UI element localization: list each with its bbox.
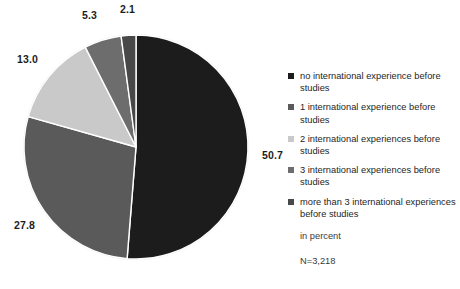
legend-swatch-icon [288, 167, 294, 173]
slice-value-label-2: 13.0 [17, 53, 38, 65]
legend-item: 2 international experiences before studi… [288, 133, 458, 157]
pie-chart-svg [0, 0, 280, 289]
slice-value-label-3: 5.3 [82, 9, 97, 21]
unit-note: in percent [300, 231, 341, 241]
pie-slice [127, 35, 248, 259]
legend-item: 1 international experience before studie… [288, 101, 458, 125]
legend-swatch-icon [288, 136, 294, 142]
slice-value-label-0: 50.7 [262, 149, 283, 161]
sample-size-note: N=3,218 [300, 256, 335, 266]
legend-swatch-icon [288, 73, 294, 79]
legend-item: no international experience before studi… [288, 70, 458, 94]
legend-item: more than 3 international experiences be… [288, 196, 458, 220]
legend-item-label: more than 3 international experiences be… [300, 196, 458, 220]
legend-swatch-icon [288, 104, 294, 110]
slice-value-label-1: 27.8 [14, 219, 35, 231]
legend-item-label: 3 international experiences before studi… [300, 164, 458, 188]
chart-legend: no international experience before studi… [288, 70, 458, 227]
legend-item-label: 2 international experiences before studi… [300, 133, 458, 157]
legend-swatch-icon [288, 199, 294, 205]
slice-value-label-4: 2.1 [120, 3, 135, 15]
legend-item-label: no international experience before studi… [300, 70, 458, 94]
pie-chart-figure: 50.7 27.8 13.0 5.3 2.1 no international … [0, 0, 460, 289]
legend-item-label: 1 international experience before studie… [300, 101, 458, 125]
legend-item: 3 international experiences before studi… [288, 164, 458, 188]
pie-slice-group [23, 34, 249, 260]
